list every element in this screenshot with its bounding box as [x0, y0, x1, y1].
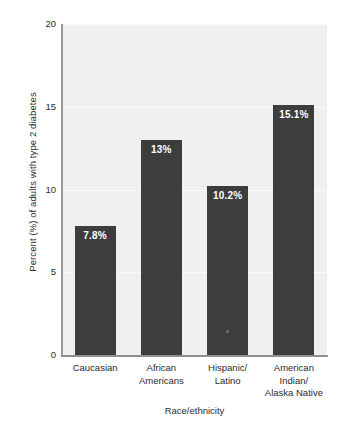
bar[interactable]: 15.1% [273, 105, 314, 355]
x-axis-tick-label: Caucasian [62, 362, 128, 375]
y-axis-tick-label: 5 [30, 267, 56, 277]
bar-value-label: 10.2% [207, 190, 248, 201]
x-axis-line [61, 355, 328, 357]
y-axis-tick-label: 0 [30, 350, 56, 360]
bar-value-label: 13% [141, 144, 182, 155]
x-axis-tick-label: Hispanic/ Latino [195, 362, 261, 387]
gridline [62, 24, 327, 25]
x-axis-tick-label: African Americans [128, 362, 194, 387]
bar-chart-figure: Percent (%) of adults with type 2 diabet… [0, 0, 348, 424]
y-axis-line [61, 24, 63, 356]
x-axis-tick-label: American Indian/ Alaska Native [261, 362, 327, 400]
bar-value-label: 7.8% [75, 230, 116, 241]
y-axis-tick-label: 15 [30, 102, 56, 112]
bar[interactable]: 13% [141, 140, 182, 355]
y-axis-tick-label: 20 [30, 19, 56, 29]
y-axis-title: Percent (%) of adults with type 2 diabet… [22, 12, 42, 352]
x-axis-title: Race/ethnicity [62, 405, 327, 416]
y-axis-tick-label: 10 [30, 185, 56, 195]
plot-area: 7.8%13%10.2%15.1% [62, 24, 327, 355]
scan-artifact-speck [226, 330, 229, 333]
bar-value-label: 15.1% [273, 109, 314, 120]
bar[interactable]: 7.8% [75, 226, 116, 355]
